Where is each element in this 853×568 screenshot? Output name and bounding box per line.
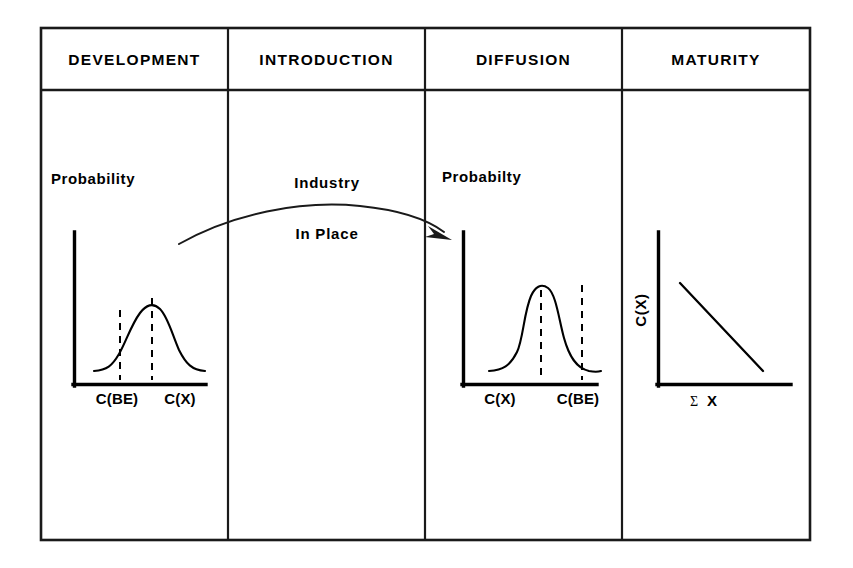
sigma-symbol: Σ [690, 394, 698, 409]
probability-label-development: Probability [51, 170, 135, 187]
table-frame [41, 28, 810, 540]
panel-development: Probability C(BE) C(X) [51, 170, 206, 407]
column-headers: DEVELOPMENT INTRODUCTION DIFFUSION MATUR… [68, 51, 760, 68]
tick-label-cbe-diffusion: C(BE) [557, 390, 600, 407]
flow-label-industry: Industry [294, 174, 360, 191]
technology-life-cycle-figure: DEVELOPMENT INTRODUCTION DIFFUSION MATUR… [0, 0, 853, 568]
header-diffusion: DIFFUSION [476, 51, 571, 68]
learning-curve-line-maturity [680, 283, 763, 371]
tick-label-cbe-development: C(BE) [96, 390, 139, 407]
tick-label-cx-diffusion: C(X) [484, 390, 516, 407]
flow-label-in-place: In Place [295, 225, 358, 242]
tick-label-cx-development: C(X) [164, 390, 196, 407]
panel-maturity: C(X) Σ X [632, 232, 791, 409]
x-axis-label-maturity: Σ X [690, 392, 717, 409]
y-axis-label-maturity: C(X) [632, 293, 649, 326]
figure-canvas: DEVELOPMENT INTRODUCTION DIFFUSION MATUR… [0, 0, 853, 568]
distribution-curve-development [94, 305, 205, 371]
axes-maturity [657, 232, 791, 386]
header-development: DEVELOPMENT [68, 51, 200, 68]
header-maturity: MATURITY [671, 51, 760, 68]
panel-introduction: Industry In Place [179, 174, 452, 244]
x-variable-label: X [707, 392, 717, 409]
header-introduction: INTRODUCTION [259, 51, 393, 68]
probability-label-diffusion: Probabilty [442, 168, 521, 185]
panel-diffusion: Probabilty C(X) C(BE) [442, 168, 601, 407]
distribution-curve-diffusion [489, 286, 601, 372]
